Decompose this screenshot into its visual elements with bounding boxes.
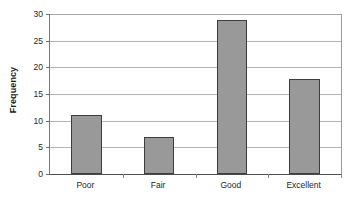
x-axis-tick-mark — [196, 174, 197, 178]
y-axis-tick-labels: 051015202530 — [26, 14, 46, 174]
x-axis-tick-mark — [123, 174, 124, 178]
bar-chart: Frequency 051015202530 PoorFairGoodExcel… — [0, 0, 354, 210]
y-axis-tick-label: 5 — [38, 142, 43, 152]
bar — [217, 20, 248, 174]
x-axis-tick-labels: PoorFairGoodExcellent — [49, 180, 340, 200]
bar — [144, 137, 175, 174]
y-axis-tick-label: 0 — [38, 169, 43, 179]
y-axis-tick-label: 10 — [34, 116, 43, 126]
bar — [71, 115, 102, 174]
y-axis-tick-label: 30 — [34, 9, 43, 19]
y-axis-tick-label: 25 — [34, 36, 43, 46]
x-axis-tick-label: Excellent — [286, 180, 321, 190]
x-axis-tick-mark — [341, 174, 342, 178]
y-axis-title-label: Frequency — [8, 67, 18, 113]
x-axis-tick-label: Fair — [151, 180, 166, 190]
y-axis-title: Frequency — [0, 0, 26, 180]
bar — [289, 79, 320, 174]
bars-group — [50, 14, 341, 174]
y-axis-tick-label: 15 — [34, 89, 43, 99]
x-axis-tick-label: Good — [220, 180, 241, 190]
plot-area — [49, 14, 342, 175]
y-axis-tick-mark — [46, 174, 50, 175]
x-axis-tick-mark — [268, 174, 269, 178]
x-axis-tick-label: Poor — [76, 180, 94, 190]
y-axis-tick-label: 20 — [34, 62, 43, 72]
